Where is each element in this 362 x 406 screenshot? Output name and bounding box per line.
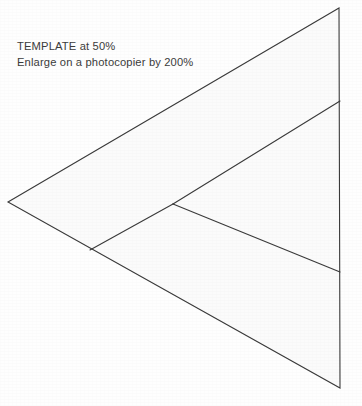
template-scale-label: TEMPLATE at 50% — [17, 39, 237, 55]
enlarge-instruction-label: Enlarge on a photocopier by 200% — [17, 55, 237, 71]
instruction-text-block: TEMPLATE at 50% Enlarge on a photocopier… — [17, 39, 237, 70]
template-page: TEMPLATE at 50% Enlarge on a photocopier… — [0, 0, 362, 406]
